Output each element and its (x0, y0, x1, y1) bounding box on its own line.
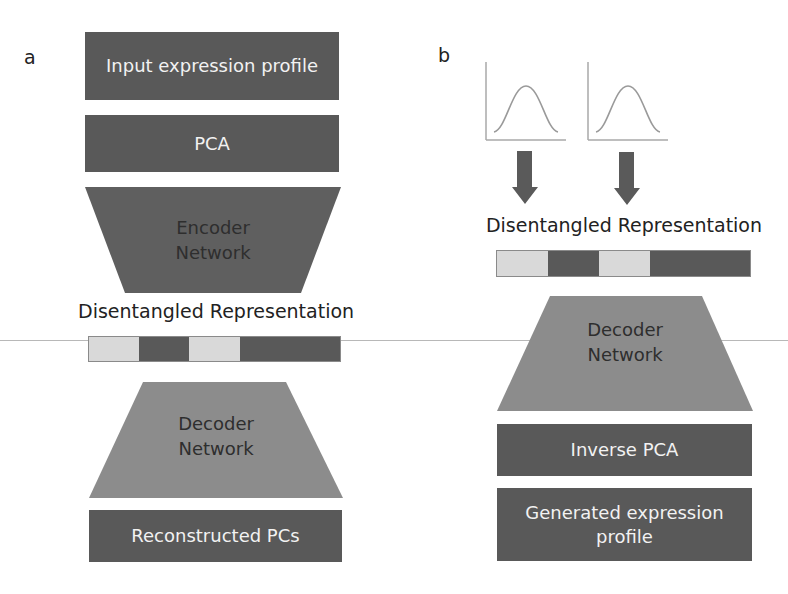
encoder-line1: Encoder (176, 215, 250, 240)
down-arrow-icon (511, 151, 539, 205)
latent-segment-dark (240, 337, 340, 361)
decoder-line1: Decoder (178, 411, 254, 436)
decoder-network-label-b: Decoder Network (497, 284, 753, 399)
generated-expression-profile-box: Generated expression profile (497, 488, 752, 561)
decoder-network-shape-b: Decoder Network (497, 296, 753, 411)
input-expression-profile-text: Input expression profile (106, 54, 318, 78)
down-arrow-2 (613, 152, 641, 206)
down-arrow-1 (511, 151, 539, 205)
inverse-pca-text: Inverse PCA (571, 438, 679, 462)
encoder-network-shape: Encoder Network (85, 187, 341, 293)
panel-a-label: a (24, 46, 36, 68)
latent-segment-dark (650, 251, 750, 276)
representation-bar-b (496, 250, 751, 277)
generated-expression-line2: profile (596, 525, 653, 549)
input-expression-profile-box: Input expression profile (85, 32, 339, 100)
panel-b-label: b (438, 44, 450, 66)
latent-segment-light (599, 251, 650, 276)
reconstructed-pcs-text: Reconstructed PCs (131, 524, 299, 548)
gaussian-curve-icon (484, 60, 568, 144)
latent-segment-light (497, 251, 548, 276)
decoder-network-label-a: Decoder Network (89, 378, 343, 494)
gaussian-curve-icon (586, 60, 670, 144)
reconstructed-pcs-box: Reconstructed PCs (89, 510, 342, 562)
decoder-line2: Network (178, 436, 253, 461)
pca-text: PCA (194, 132, 230, 156)
latent-segment-light (189, 337, 240, 361)
latent-segment-dark (139, 337, 189, 361)
distribution-plot-1 (484, 60, 568, 144)
disentangled-representation-label-a: Disentangled Representation (78, 300, 354, 322)
generated-expression-line1: Generated expression (525, 501, 723, 525)
distribution-plot-2 (586, 60, 670, 144)
latent-segment-light (89, 337, 139, 361)
disentangled-representation-label-b: Disentangled Representation (480, 214, 768, 236)
encoder-line2: Network (175, 240, 250, 265)
decoder-line1: Decoder (587, 317, 663, 342)
decoder-line2: Network (587, 342, 662, 367)
pca-box: PCA (85, 115, 339, 172)
encoder-network-label: Encoder Network (85, 187, 341, 293)
decoder-network-shape-a: Decoder Network (89, 382, 343, 498)
down-arrow-icon (613, 152, 641, 206)
latent-segment-dark (548, 251, 599, 276)
representation-bar-a (88, 336, 341, 362)
inverse-pca-box: Inverse PCA (497, 424, 752, 476)
